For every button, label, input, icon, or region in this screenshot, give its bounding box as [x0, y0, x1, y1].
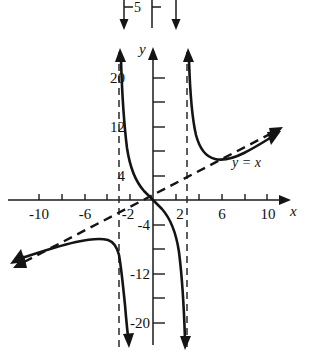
x-tick-label-neg2: -2: [122, 206, 135, 222]
x-tick-label-neg10: -10: [29, 206, 49, 222]
branch-middle-arrowhead-top: [115, 48, 126, 62]
branch-right-arrowhead-right: [267, 131, 281, 145]
main-graph-canvas: y x 20 12 4 -4 -12 -20 -10 -6 -2 2 6 10 …: [0, 0, 309, 352]
y-tick-label-neg12: -12: [130, 266, 150, 282]
x-tick-label-6: 6: [218, 206, 226, 222]
y-axis-arrowhead: [148, 47, 158, 60]
x-axis-name-label: x: [289, 203, 297, 219]
branch-left-arrowhead-lowerleft: [10, 249, 25, 264]
x-tick-label-2: 2: [176, 206, 184, 222]
y-tick-label-12: 12: [110, 119, 125, 135]
branch-left-arrowhead-bottom: [123, 333, 134, 348]
branch-right-arrowhead-top: [183, 48, 194, 62]
y-tick-label-neg4: -4: [138, 217, 151, 233]
figure-root: 5: [0, 0, 309, 352]
branch-middle-arrowhead-bottom: [180, 336, 191, 350]
y-axis-name-label: y: [137, 41, 146, 57]
asymptote-equation-label: y = x: [230, 155, 262, 170]
curve-branch-right: [183, 48, 281, 160]
y-tick-label-neg20: -20: [130, 315, 150, 331]
y-tick-label-20: 20: [110, 70, 125, 86]
y-tick-label-4: 4: [118, 168, 126, 184]
x-tick-label-10: 10: [261, 206, 276, 222]
curve-branch-left: [10, 239, 134, 348]
x-tick-label-neg6: -6: [79, 206, 92, 222]
